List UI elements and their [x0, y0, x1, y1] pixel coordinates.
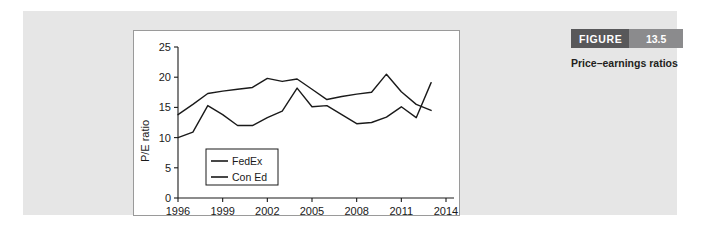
series-line-fedex [178, 83, 431, 138]
x-tick-label: 2005 [300, 205, 324, 217]
y-tick-label: 25 [159, 41, 171, 53]
figure-banner-label: FIGURE [571, 29, 629, 48]
figure-screenshot: 0510152025 1996199920022005200820112014 … [0, 0, 701, 236]
chart-legend: FedExCon Ed [206, 149, 278, 185]
chart-card: 0510152025 1996199920022005200820112014 … [133, 30, 460, 216]
y-axis-title: P/E ratio [139, 120, 151, 162]
pe-ratio-line-chart: 0510152025 1996199920022005200820112014 … [134, 31, 461, 217]
x-tick-label: 2014 [434, 205, 458, 217]
x-tick-label: 2002 [255, 205, 279, 217]
y-tick-label: 20 [159, 71, 171, 83]
x-tick-label: 1996 [166, 205, 190, 217]
y-tick-label: 5 [165, 162, 171, 174]
y-axis-title-text: P/E ratio [139, 120, 151, 162]
series-line-con-ed [178, 74, 431, 114]
legend-label-0: FedEx [232, 155, 263, 167]
y-tick-label: 10 [159, 132, 171, 144]
x-axis: 1996199920022005200820112014 [166, 198, 458, 217]
y-axis: 0510152025 [159, 41, 178, 204]
figure-panel: 0510152025 1996199920022005200820112014 … [23, 11, 677, 215]
y-tick-label: 0 [165, 192, 171, 204]
figure-caption: Price–earnings ratios [571, 57, 681, 71]
x-tick-label: 1999 [210, 205, 234, 217]
x-tick-label: 2008 [344, 205, 368, 217]
data-series [178, 74, 431, 137]
legend-label-1: Con Ed [232, 171, 267, 183]
figure-banner-number: 13.5 [629, 29, 683, 48]
y-tick-label: 15 [159, 101, 171, 113]
x-tick-label: 2011 [390, 205, 414, 217]
figure-label-block: FIGURE 13.5 Price–earnings ratios [571, 29, 686, 71]
figure-banner: FIGURE 13.5 [571, 29, 683, 48]
